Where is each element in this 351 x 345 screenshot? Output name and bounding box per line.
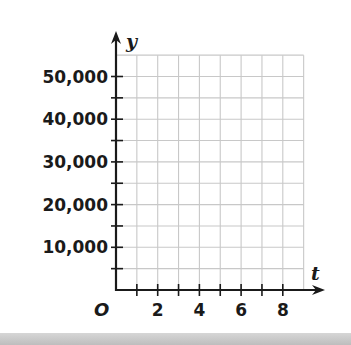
x-tick-label: 4 [193,300,205,320]
coordinate-grid-chart: 10,00020,00030,00040,00050,0002468 y t O [0,0,351,345]
y-tick-label: 30,000 [42,152,108,172]
x-tick-label: 8 [277,300,289,320]
grid-lines [116,55,304,290]
y-tick-label: 20,000 [42,195,108,215]
axis-labels: 10,00020,00030,00040,00050,0002468 [42,67,288,321]
y-tick-label: 50,000 [42,67,108,87]
y-axis-label: y [125,30,139,52]
x-tick-label: 2 [152,300,164,320]
bottom-divider-band [0,333,351,345]
axes [111,31,325,295]
y-tick-label: 40,000 [42,109,108,129]
origin-label: O [94,299,109,320]
y-tick-label: 10,000 [42,237,108,257]
x-axis-label: t [311,262,320,284]
x-tick-label: 6 [235,300,247,320]
